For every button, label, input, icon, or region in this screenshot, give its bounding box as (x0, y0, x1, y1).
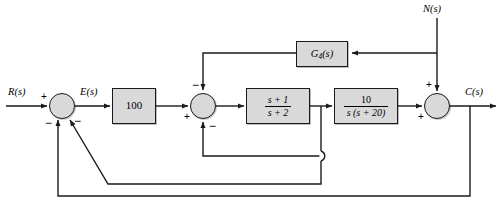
label-error-es: E(s) (80, 86, 98, 97)
sign-sum1-minus-bottom-right: − (74, 115, 81, 127)
wire-g4-to-sum2 (203, 53, 296, 90)
block-plant[interactable]: 10 s (s + 20) (334, 88, 398, 124)
summing-junction-2[interactable] (190, 93, 216, 119)
block-g4[interactable]: G4(s) (296, 41, 348, 67)
block-gain-100-label: 100 (126, 100, 143, 112)
block-g4-label: G4(s) (311, 48, 333, 61)
wire-secondary-feedback-to-sum1 (70, 120, 321, 184)
sign-sum1-plus-left: + (41, 92, 47, 102)
sign-sum2-minus-bottom: − (209, 120, 216, 132)
label-disturbance-ns: N(s) (423, 3, 441, 14)
block-plant-numerator: 10 (344, 94, 389, 107)
summing-junction-1[interactable] (49, 93, 75, 119)
sign-sum3-plus-top: + (426, 80, 432, 90)
block-gain-100[interactable]: 100 (112, 88, 156, 124)
sign-sum2-minus-top: − (192, 79, 199, 91)
label-input-rs: R(s) (8, 86, 26, 97)
block-diagram-canvas: 100 G4(s) s + 1 s + 2 10 s (s + 20) R(s)… (0, 0, 502, 211)
block-lead-denominator: s + 2 (265, 107, 292, 119)
block-lead-numerator: s + 1 (265, 94, 292, 107)
sign-sum3-plus-left: + (418, 112, 424, 122)
label-output-cs: C(s) (465, 86, 483, 97)
block-plant-denominator: s (s + 20) (344, 107, 389, 119)
block-lead-compensator[interactable]: s + 1 s + 2 (246, 88, 310, 124)
block-plant-label: 10 s (s + 20) (344, 94, 389, 118)
summing-junction-3[interactable] (424, 93, 450, 119)
wire-crossing-hop (321, 151, 325, 161)
sign-sum2-plus-left: + (184, 112, 190, 122)
block-lead-label: s + 1 s + 2 (265, 94, 292, 118)
sign-sum1-minus-bottom-left: − (45, 117, 52, 129)
block-g4-tail: (s) (322, 48, 333, 59)
